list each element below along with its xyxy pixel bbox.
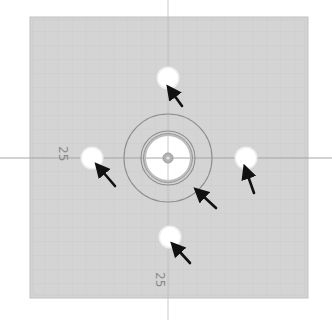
left-dimension-label: 25	[56, 146, 70, 161]
top-hole	[157, 67, 180, 90]
right-hole	[235, 147, 258, 170]
hub-core-center	[166, 156, 169, 159]
bottom-dimension-label: 25	[153, 272, 167, 287]
bottom-hole	[159, 226, 182, 249]
cad-drawing: 25 25	[0, 0, 332, 320]
left-hole	[81, 147, 104, 170]
